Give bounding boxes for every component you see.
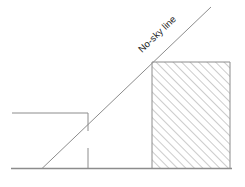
diagram-canvas: No-sky line	[0, 0, 245, 187]
hatched-obstruction-fill	[152, 62, 230, 169]
no-sky-line-label: No-sky line	[136, 13, 178, 54]
hatched-obstruction	[152, 62, 230, 169]
existing-building-outline	[12, 113, 88, 131]
no-sky-line-diagram: No-sky line	[0, 0, 245, 187]
